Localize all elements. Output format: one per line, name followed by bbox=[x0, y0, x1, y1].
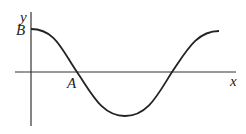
point-b-label: B bbox=[16, 22, 25, 38]
point-a-label: A bbox=[66, 75, 77, 91]
wave-graph: y B A x bbox=[0, 0, 246, 134]
x-axis-label: x bbox=[229, 73, 237, 89]
